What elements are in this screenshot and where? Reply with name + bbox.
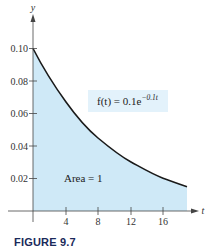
y-tick-label: 0.08 xyxy=(11,76,29,87)
area-label: Area = 1 xyxy=(64,172,103,184)
figure-caption: FIGURE 9.7 xyxy=(14,236,76,248)
x-tick-label: 16 xyxy=(158,216,168,227)
x-tick-label: 12 xyxy=(126,216,136,227)
chart: 0.10 0.08 0.06 0.04 0.02 4 8 12 16 y t f… xyxy=(0,0,208,251)
y-tick-label: 0.10 xyxy=(11,43,29,54)
y-axis-label: y xyxy=(30,2,36,13)
y-tick-label: 0.04 xyxy=(11,141,29,152)
area-fill xyxy=(33,49,187,212)
y-tick-label: 0.06 xyxy=(11,108,29,119)
y-tick-label: 0.02 xyxy=(11,173,29,184)
y-axis-arrow-icon xyxy=(31,14,36,22)
function-label-exponent: −0.1t xyxy=(141,93,158,102)
x-axis-label: t xyxy=(202,205,205,216)
x-axis-arrow-icon xyxy=(191,209,199,214)
x-tick-label: 8 xyxy=(96,216,101,227)
function-label-main: f(t) = 0.1e xyxy=(97,95,141,108)
x-tick-label: 4 xyxy=(64,216,69,227)
